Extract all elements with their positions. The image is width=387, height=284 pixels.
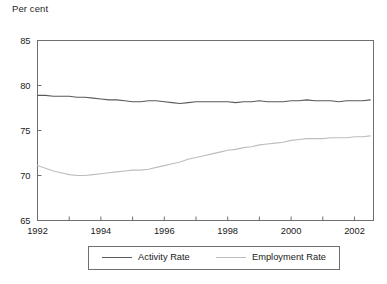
legend-entry: Activity Rate (102, 253, 190, 262)
legend-line-swatch (216, 257, 246, 258)
x-axis-tick-label: 1994 (91, 226, 112, 236)
y-axis-tick-label: 75 (20, 126, 30, 136)
x-axis-tick-label: 2000 (281, 226, 302, 236)
plot-area: 6570758085199219941996199820002002 (0, 0, 387, 284)
legend-line-swatch (102, 257, 132, 258)
series-line-employment-rate (38, 136, 371, 176)
y-axis-tick-label: 70 (20, 171, 30, 181)
y-axis-tick-label: 85 (20, 36, 30, 46)
series-line-activity-rate (38, 95, 371, 103)
plot-frame (38, 41, 374, 221)
x-axis-tick-label: 1992 (27, 226, 48, 236)
legend-entry: Employment Rate (216, 253, 326, 262)
line-chart-svg: 6570758085199219941996199820002002 (0, 0, 387, 284)
chart-figure: Per cent 6570758085199219941996199820002… (0, 0, 387, 284)
y-axis-tick-label: 80 (20, 81, 30, 91)
y-axis-tick-label: 65 (20, 216, 30, 226)
legend-label: Activity Rate (138, 253, 190, 262)
legend-label: Employment Rate (252, 253, 326, 262)
x-axis-tick-label: 1996 (154, 226, 175, 236)
chart-legend: Activity RateEmployment Rate (88, 246, 340, 270)
x-axis-tick-label: 2002 (344, 226, 365, 236)
x-axis-tick-label: 1998 (217, 226, 238, 236)
